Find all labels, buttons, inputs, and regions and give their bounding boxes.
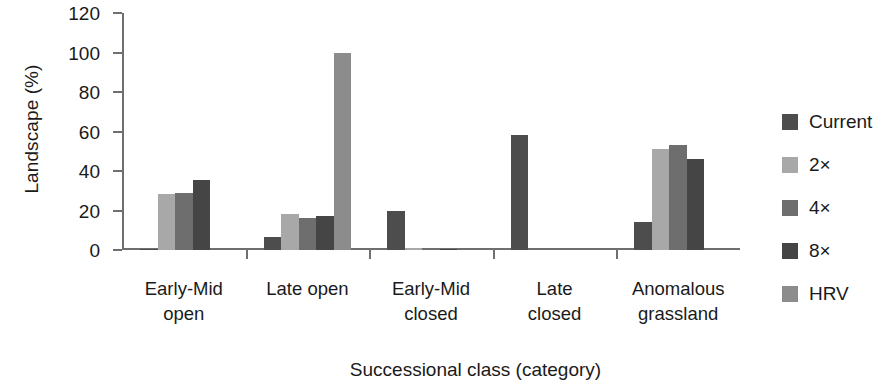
bar (334, 53, 352, 251)
x-tick-mark (493, 250, 495, 259)
bar (140, 249, 158, 251)
bar (634, 222, 652, 250)
bar-chart-figure: Landscape (%) 020406080100120 Early-Mido… (0, 0, 881, 392)
bar (281, 214, 299, 250)
legend-swatch-icon (782, 114, 798, 130)
legend-label: 2× (809, 155, 831, 174)
y-tick-mark: 120 (113, 12, 122, 14)
y-tick-label: 100 (68, 43, 100, 62)
plot-area: 020406080100120 (122, 13, 740, 250)
y-tick-mark: 20 (113, 210, 122, 212)
legend-item: Current (782, 100, 872, 143)
y-tick-mark: 100 (113, 52, 122, 54)
bar (175, 193, 193, 250)
bar (264, 237, 282, 250)
y-tick-mark: 0 (113, 249, 122, 251)
bar (687, 159, 705, 250)
x-tick-mark (616, 250, 618, 259)
bar (669, 145, 687, 250)
bar (387, 211, 405, 251)
bar (299, 218, 317, 250)
legend-swatch-icon (782, 200, 798, 216)
category-label-line: Anomalous (598, 276, 758, 301)
legend-swatch-icon (782, 243, 798, 259)
y-tick-mark: 40 (113, 170, 122, 172)
bar (511, 135, 529, 250)
bar (316, 216, 334, 250)
y-tick-label: 80 (79, 83, 100, 102)
y-tick-label: 20 (79, 201, 100, 220)
y-tick-mark: 60 (113, 131, 122, 133)
x-axis-category-label: Anomalousgrassland (598, 276, 758, 326)
bar (440, 249, 458, 251)
legend-item: 8× (782, 229, 872, 272)
bar (422, 249, 440, 251)
legend-item: 2× (782, 143, 872, 186)
legend-item: 4× (782, 186, 872, 229)
x-tick-mark (369, 250, 371, 259)
category-label-line: grassland (598, 301, 758, 326)
legend: Current2×4×8×HRV (782, 100, 872, 315)
y-tick-label: 0 (89, 241, 100, 260)
bar (405, 248, 423, 250)
y-axis-title: Landscape (%) (21, 9, 43, 249)
y-tick-label: 120 (68, 4, 100, 23)
legend-label: HRV (809, 284, 849, 303)
legend-label: Current (809, 112, 872, 131)
bar (158, 194, 176, 250)
x-tick-mark (246, 250, 248, 259)
legend-swatch-icon (782, 286, 798, 302)
legend-label: 4× (809, 198, 831, 217)
y-tick-mark: 80 (113, 91, 122, 93)
category-label-line: open (104, 301, 264, 326)
legend-swatch-icon (782, 157, 798, 173)
bar (652, 149, 670, 250)
legend-item: HRV (782, 272, 872, 315)
y-tick-label: 40 (79, 162, 100, 181)
x-axis-title: Successional class (category) (0, 359, 881, 381)
bar (193, 180, 211, 250)
y-axis-line (122, 13, 124, 250)
y-tick-label: 60 (79, 122, 100, 141)
legend-label: 8× (809, 241, 831, 260)
